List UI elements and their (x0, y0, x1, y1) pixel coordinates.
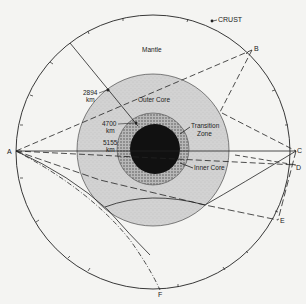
label-depth-1-value: 2894 (83, 89, 98, 96)
label-transition-2: Zone (197, 130, 212, 137)
label-depth-2-value: 4700 (102, 120, 117, 127)
label-outer-core: Outer Core (138, 96, 171, 103)
label-transition-1: Transition (191, 122, 220, 129)
label-point-c: C (297, 147, 302, 154)
ray-c-e (278, 151, 296, 220)
inner-core (130, 124, 180, 174)
label-point-b: B (254, 45, 259, 52)
label-depth-3-value: 5155 (103, 139, 118, 146)
ray-b-c (220, 50, 296, 151)
label-depth-2-unit: km (106, 127, 115, 134)
label-depth-3-unit: km (106, 146, 115, 153)
label-crust: CRUST (218, 16, 243, 23)
label-point-d: D (296, 164, 301, 171)
label-point-e: E (280, 217, 285, 224)
label-point-a: A (7, 148, 12, 155)
earth-interior-diagram: CRUST Mantle Outer Core Transition Zone … (0, 0, 306, 304)
label-depth-1-unit: km (86, 96, 95, 103)
label-point-f: F (158, 291, 162, 298)
label-inner-core: Inner Core (194, 164, 225, 171)
label-mantle: Mantle (142, 46, 162, 53)
